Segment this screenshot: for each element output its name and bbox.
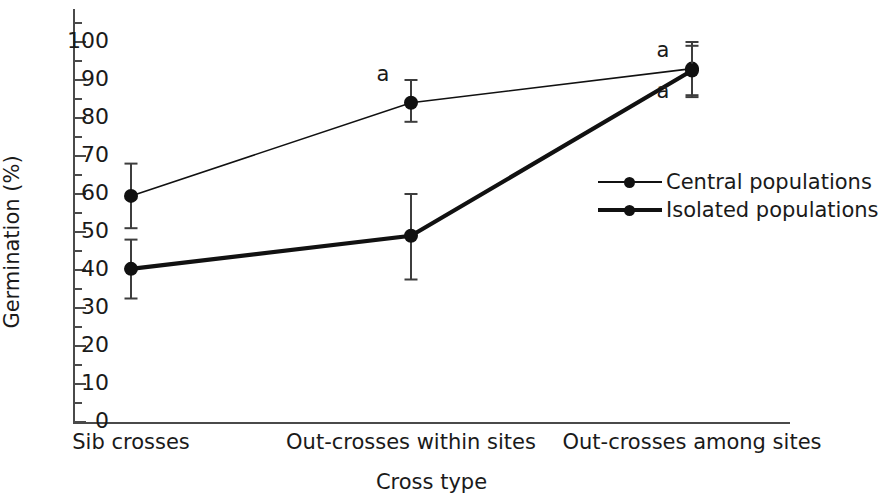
chart-legend: Central populations Isolated populations [598,168,860,224]
legend-line-marker-thin-icon [598,173,662,191]
x-tick-label: Out-crosses within sites [286,430,536,454]
annotation-letter: a [657,39,670,60]
data-point-marker [404,229,418,243]
x-tick-label: Sib crosses [72,430,189,454]
x-tick-label: Out-crosses among sites [563,430,822,454]
data-point-marker [124,262,138,276]
y-axis-label: Germination (%) [0,32,34,452]
data-point-marker [124,189,138,203]
legend-item-central[interactable]: Central populations [598,168,860,196]
data-point-marker [685,64,699,78]
annotation-letter: a [657,81,670,102]
annotation-letter: a [377,64,390,85]
legend-label-isolated: Isolated populations [662,198,879,222]
data-point-marker [404,96,418,110]
legend-line-marker-thick-icon [598,201,662,219]
legend-label-central: Central populations [662,170,872,194]
x-axis-label: Cross type [73,470,790,494]
legend-item-isolated[interactable]: Isolated populations [598,196,860,224]
